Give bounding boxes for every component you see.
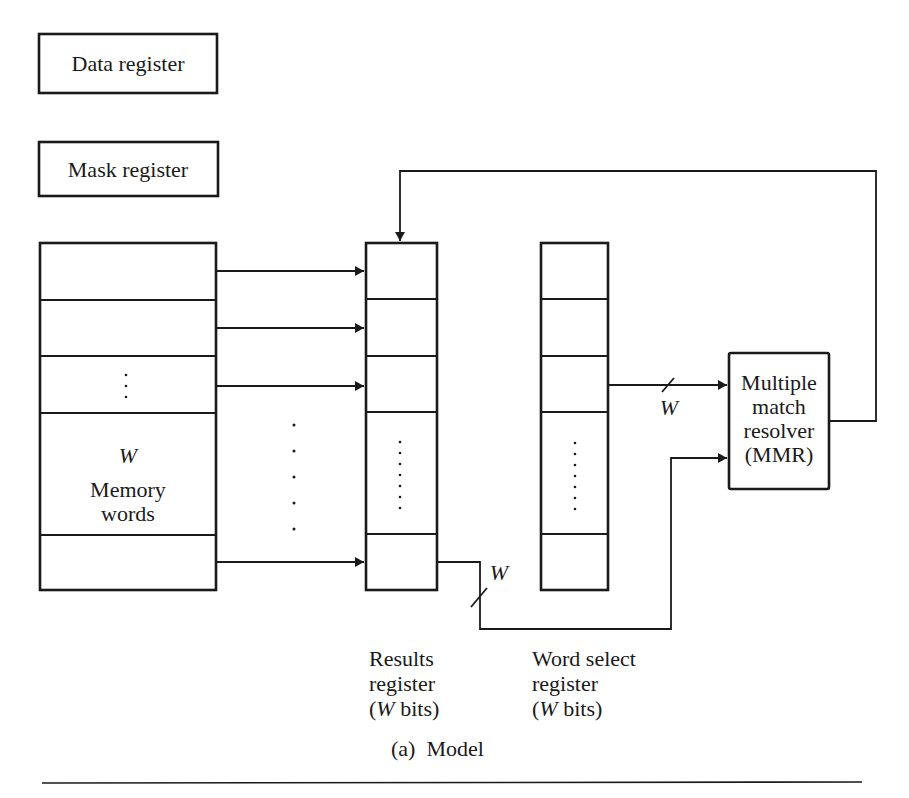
results-register-caption: Results register (W bits) (369, 646, 439, 721)
mmr-label-line3: resolver (744, 418, 816, 443)
word-select-register (541, 243, 608, 590)
mmr-label-line2: match (752, 394, 806, 419)
memory-label-line2: words (101, 501, 155, 526)
word-select-bus-width: W (660, 395, 680, 420)
svg-text:register: register (369, 671, 436, 696)
middle-ellipsis (293, 424, 296, 531)
horizontal-rule (42, 782, 862, 783)
figure-caption: (a) Model (391, 736, 484, 761)
memory-label-line1: Memory (90, 477, 166, 502)
svg-text:(W bits): (W bits) (369, 696, 439, 721)
svg-text:Word select: Word select (532, 646, 636, 671)
word-select-to-mmr-bus: W (608, 378, 727, 420)
data-register: Data register (39, 34, 217, 93)
mask-register-label: Mask register (68, 157, 189, 182)
results-register (366, 243, 437, 590)
memory-words-block: W Memory words (40, 243, 216, 590)
memory-width-symbol: W (119, 443, 139, 468)
word-select-register-caption: Word select register (W bits) (532, 646, 636, 721)
mmr-label-line1: Multiple (741, 370, 817, 395)
data-register-label: Data register (72, 51, 186, 76)
memory-to-results-arrows (216, 271, 364, 562)
multiple-match-resolver: Multiple match resolver (MMR) (729, 353, 829, 489)
svg-text:register: register (532, 671, 599, 696)
results-bus-width: W (490, 560, 510, 585)
svg-text:(W bits): (W bits) (532, 696, 602, 721)
associative-memory-diagram: Data register Mask register W Memory wor… (0, 0, 909, 798)
mmr-label-line4: (MMR) (745, 442, 813, 467)
svg-text:Results: Results (369, 646, 434, 671)
mask-register: Mask register (39, 142, 218, 196)
